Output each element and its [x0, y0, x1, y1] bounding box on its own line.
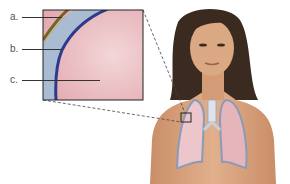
inset-magnified-pleura	[43, 8, 143, 100]
label-b: b.	[10, 43, 18, 54]
leader-line-c	[22, 80, 100, 81]
pleura-diagram	[0, 0, 290, 184]
leader-line-b	[22, 49, 62, 50]
label-a: a.	[10, 11, 18, 22]
label-c: c.	[10, 74, 18, 85]
leader-line-a	[22, 17, 62, 18]
torso-illustration	[150, 9, 276, 184]
